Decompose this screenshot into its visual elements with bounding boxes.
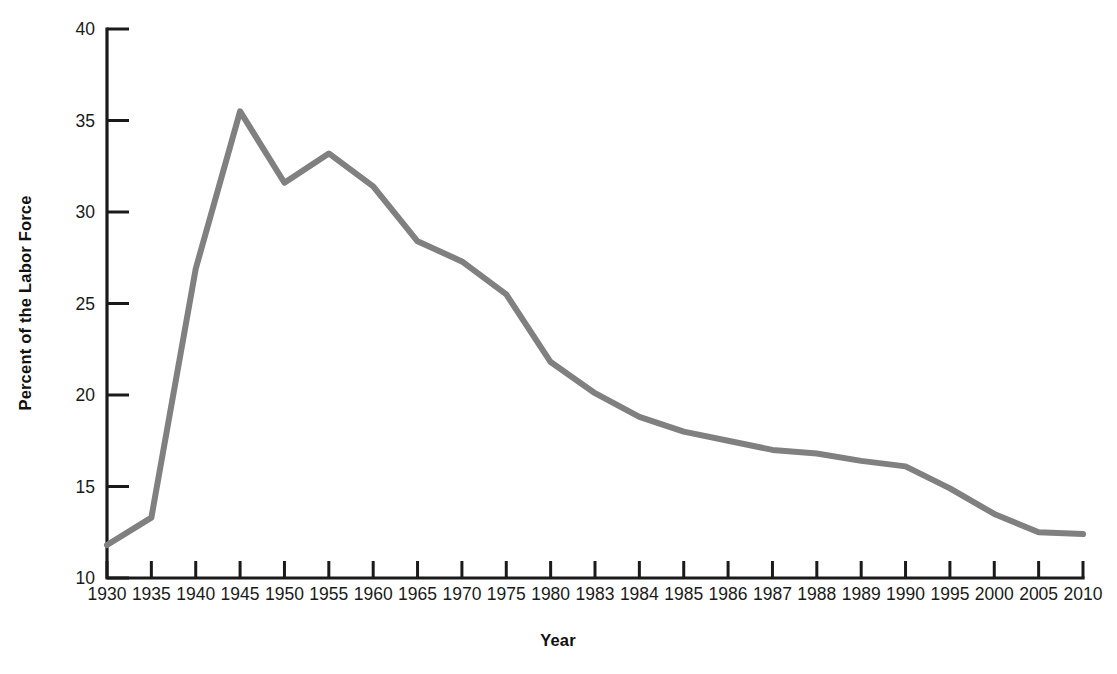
x-tick-label: 1984 — [620, 584, 659, 604]
x-tick-label: 2000 — [975, 584, 1014, 604]
x-tick-label: 1930 — [88, 584, 127, 604]
x-tick-label: 2005 — [1019, 584, 1058, 604]
y-tick-label: 35 — [76, 111, 95, 131]
x-tick-label: 1995 — [930, 584, 969, 604]
x-tick-label: 2010 — [1064, 584, 1103, 604]
x-tick-label: 1990 — [886, 584, 925, 604]
chart-figure: 10152025303540 1930193519401945195019551… — [0, 0, 1117, 674]
x-tick-label: 1940 — [176, 584, 215, 604]
x-tick-label: 1988 — [797, 584, 836, 604]
x-tick-label: 1987 — [753, 584, 792, 604]
x-tick-label: 1970 — [442, 584, 481, 604]
line-chart: 10152025303540 1930193519401945195019551… — [0, 0, 1117, 674]
y-tick-label: 20 — [76, 385, 96, 405]
y-tick-label: 40 — [76, 19, 96, 39]
x-tick-label: 1960 — [354, 584, 393, 604]
x-tick-label: 1965 — [398, 584, 437, 604]
x-tick-label: 1950 — [265, 584, 304, 604]
x-tick-label: 1955 — [309, 584, 348, 604]
x-axis-tick-labels: 1930193519401945195019551960196519701975… — [88, 584, 1103, 604]
x-axis-title: Year — [540, 631, 576, 649]
y-tick-label: 15 — [76, 477, 95, 497]
x-tick-label: 1985 — [664, 584, 703, 604]
x-tick-label: 1983 — [576, 584, 615, 604]
x-tick-label: 1986 — [709, 584, 748, 604]
x-tick-label: 1989 — [842, 584, 881, 604]
x-tick-label: 1945 — [221, 584, 260, 604]
x-tick-label: 1975 — [487, 584, 526, 604]
y-tick-label: 30 — [76, 202, 96, 222]
y-tick-label: 25 — [76, 294, 95, 314]
y-axis-title: Percent of the Labor Force — [16, 195, 34, 410]
x-tick-label: 1980 — [531, 584, 570, 604]
x-tick-label: 1935 — [132, 584, 171, 604]
